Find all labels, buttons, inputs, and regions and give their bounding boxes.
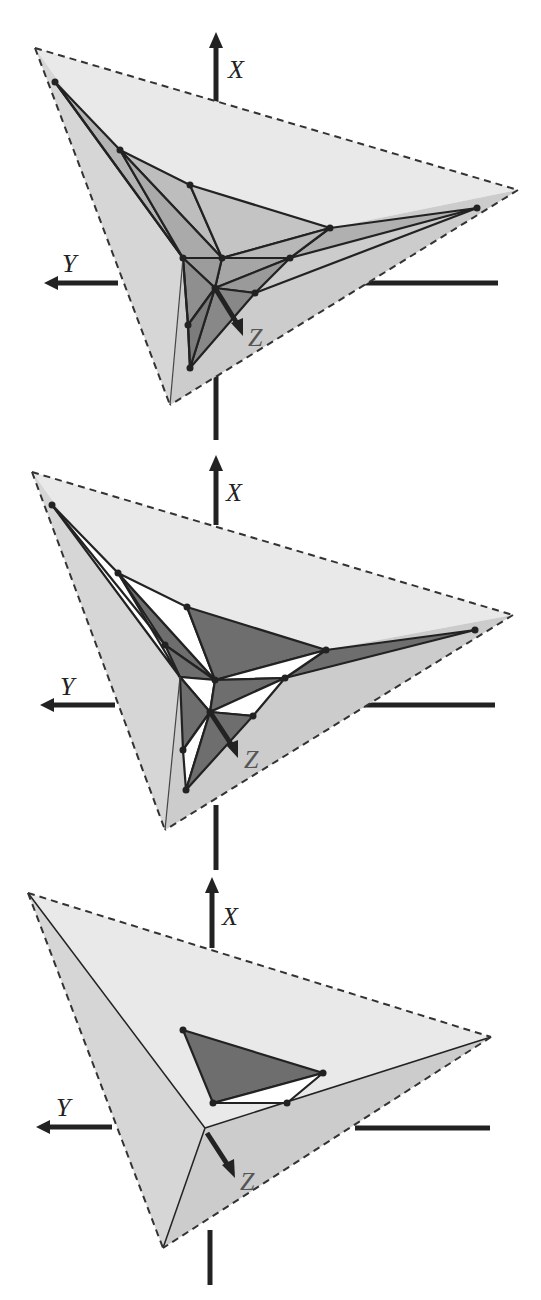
y-axis-arrow-icon (36, 1120, 50, 1134)
z-axis-label: Z (248, 323, 263, 352)
y-axis-label: Y (56, 1093, 73, 1122)
x-axis-arrow-icon (209, 455, 223, 471)
y-axis-arrow-icon (44, 276, 58, 290)
x-axis-arrow-icon (209, 32, 223, 48)
y-axis-arrow-icon (40, 698, 54, 712)
x-axis-label: X (227, 55, 245, 84)
x-axis-label: X (221, 902, 239, 931)
x-axis-label: X (225, 478, 243, 507)
y-axis-label: Y (62, 249, 79, 278)
panel-3: X Y Z (0, 860, 541, 1300)
panel-1-diagram: X Y Z (0, 0, 541, 440)
y-axis-label: Y (60, 672, 77, 701)
z-axis-label: Z (244, 745, 259, 774)
panel-2-diagram: X Y Z (0, 440, 541, 870)
x-axis-arrow-icon (205, 877, 219, 893)
panel-2: X Y Z (0, 440, 541, 870)
panel-1: X Y Z (0, 0, 541, 440)
panel-3-diagram: X Y Z (0, 860, 541, 1300)
z-axis-label: Z (240, 1167, 255, 1196)
